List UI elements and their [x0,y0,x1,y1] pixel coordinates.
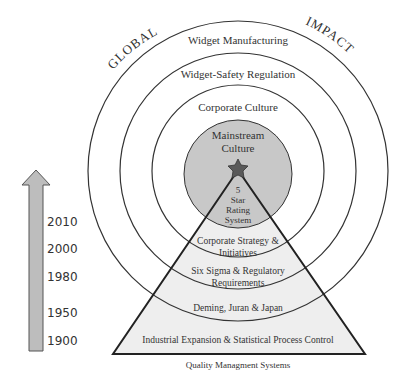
layer-industrial-expansion: Industrial Expansion & Statistical Proce… [142,335,334,345]
ring-label-widget-safety-regulation: Widget-Safety Regulation [181,68,296,80]
layer-corporate-strategy-line2: Initiatives [219,248,257,258]
year-1950: 1950 [47,306,78,320]
year-1980: 1980 [47,270,78,284]
quality-impact-diagram: 2010 2000 1980 1950 1900 GLOBAL IMPACT W… [0,0,400,385]
star-label-line4: System [225,215,252,225]
ring-label-widget-manufacturing: Widget Manufacturing [188,34,289,46]
layer-corporate-strategy-line1: Corporate Strategy & [197,236,279,246]
pyramid-caption: Quality Managment Systems [186,360,291,370]
core-label-line2: Culture [222,142,255,154]
star-label-line1: 5 [236,185,241,195]
star-label-line2: Star [231,195,246,205]
up-arrow-icon [22,170,50,351]
impact-label: IMPACT [304,13,358,56]
star-label-line3: Rating [226,205,250,215]
year-1900: 1900 [47,334,78,348]
core-label-line1: Mainstream [212,129,265,141]
year-2010: 2010 [47,215,78,229]
year-2000: 2000 [47,242,78,256]
timeline-arrow [22,170,50,351]
layer-six-sigma-line1: Six Sigma & Regulatory [191,266,285,276]
layer-six-sigma-line2: Requirements [212,278,265,288]
ring-label-corporate-culture: Corporate Culture [198,101,278,113]
timeline-years: 2010 2000 1980 1950 1900 [47,215,78,348]
layer-deming: Deming, Juran & Japan [193,303,283,313]
